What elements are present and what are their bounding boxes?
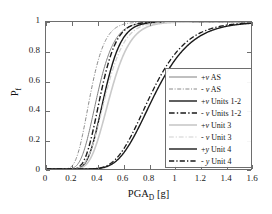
y-tick-label: 0.2 xyxy=(8,134,40,144)
axis-tick xyxy=(252,165,253,169)
legend: +v AS- v AS+v Units 1-2- v Units 1-2+v U… xyxy=(165,68,252,168)
legend-line-swatch xyxy=(168,156,198,166)
axis-tick xyxy=(150,165,151,169)
y-tick-label: 0.8 xyxy=(8,45,40,55)
axis-tick xyxy=(46,52,50,53)
legend-line-swatch xyxy=(168,132,198,142)
x-axis-title-unit: [g] xyxy=(154,188,169,199)
x-axis-title-main: PGA xyxy=(128,188,149,199)
axis-tick xyxy=(98,22,99,26)
x-tick-label: 1.6 xyxy=(232,173,272,183)
y-tick-label: 0.4 xyxy=(8,104,40,114)
axis-tick xyxy=(46,170,50,171)
fragility-curve-chart: Pf 00.20.40.60.81 00.20.40.60.811.21.41.… xyxy=(0,0,272,214)
legend-item[interactable]: +v Units 1-2 xyxy=(168,95,249,107)
legend-line-swatch xyxy=(168,96,198,106)
legend-item[interactable]: - v Units 1-2 xyxy=(168,107,249,119)
axis-tick xyxy=(46,141,50,142)
y-axis-title-main: P xyxy=(9,90,20,96)
legend-label: - v Units 1-2 xyxy=(198,109,241,118)
legend-label: - y Unit 4 xyxy=(198,157,231,166)
axis-tick xyxy=(46,165,47,169)
legend-label: +v Units 1-2 xyxy=(198,97,241,106)
legend-item[interactable]: +v AS xyxy=(168,71,249,83)
axis-tick xyxy=(98,165,99,169)
legend-item[interactable]: +v Unit 3 xyxy=(168,119,249,131)
axis-tick xyxy=(227,22,228,26)
y-tick-label: 1 xyxy=(8,15,40,25)
legend-item[interactable]: +y Unit 4 xyxy=(168,143,249,155)
legend-label: - v AS xyxy=(198,85,221,94)
legend-item[interactable]: - v AS xyxy=(168,83,249,95)
legend-label: +y Unit 4 xyxy=(198,145,231,154)
y-tick-label: 0.6 xyxy=(8,75,40,85)
legend-line-swatch xyxy=(168,120,198,130)
axis-tick xyxy=(46,82,50,83)
axis-tick xyxy=(124,22,125,26)
legend-line-swatch xyxy=(168,144,198,154)
axis-tick xyxy=(72,165,73,169)
axis-tick xyxy=(72,22,73,26)
x-axis-title: PGAD [g] xyxy=(45,188,252,202)
axis-tick xyxy=(252,22,253,26)
axis-tick xyxy=(201,22,202,26)
legend-line-swatch xyxy=(168,84,198,94)
axis-tick xyxy=(175,22,176,26)
axis-tick xyxy=(247,52,251,53)
axis-tick xyxy=(46,22,50,23)
legend-item[interactable]: - v Unit 3 xyxy=(168,131,249,143)
legend-line-swatch xyxy=(168,108,198,118)
axis-tick xyxy=(150,22,151,26)
legend-label: +v AS xyxy=(198,73,221,82)
legend-item[interactable]: - y Unit 4 xyxy=(168,155,249,167)
axis-tick xyxy=(247,22,251,23)
y-axis-title-sub: f xyxy=(14,88,23,91)
legend-label: +v Unit 3 xyxy=(198,121,231,130)
legend-line-swatch xyxy=(168,72,198,82)
axis-tick xyxy=(124,165,125,169)
axis-tick xyxy=(247,170,251,171)
legend-label: - v Unit 3 xyxy=(198,133,231,142)
axis-tick xyxy=(46,111,50,112)
